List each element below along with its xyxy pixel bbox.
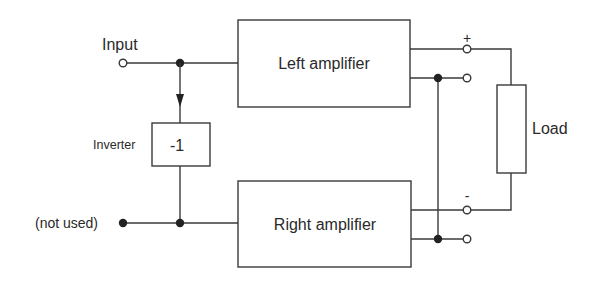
left-ground-junction xyxy=(434,74,442,82)
left-ground-terminal xyxy=(463,74,471,82)
arrow-down-icon xyxy=(176,94,184,107)
inverter-gain-label: -1 xyxy=(170,137,184,154)
plus-label: + xyxy=(463,30,471,46)
left-amplifier-label: Left amplifier xyxy=(278,55,370,72)
right-ground-terminal xyxy=(463,235,471,243)
load-label: Load xyxy=(532,120,568,137)
minus-label: - xyxy=(465,188,470,204)
inverter-label: Inverter xyxy=(93,138,135,152)
not-used-terminal xyxy=(119,219,127,227)
right-amplifier-label: Right amplifier xyxy=(274,216,377,233)
right-minus-terminal xyxy=(463,206,471,214)
left-plus-terminal xyxy=(463,45,471,53)
input-label: Input xyxy=(102,36,138,53)
right-input-junction xyxy=(176,219,184,227)
right-ground-junction xyxy=(434,235,442,243)
not-used-label: (not used) xyxy=(35,215,98,231)
bridged-amplifier-diagram: Input -1 Inverter (not used) Left amplif… xyxy=(0,0,605,287)
input-terminal xyxy=(119,59,127,67)
load-top-wire xyxy=(471,49,511,85)
load-bottom-wire xyxy=(471,173,511,210)
load-block xyxy=(497,85,526,173)
